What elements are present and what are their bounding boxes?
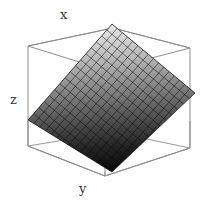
surface-fill bbox=[28, 24, 195, 172]
plot-canvas bbox=[0, 0, 208, 215]
axis-label-x: x bbox=[60, 8, 67, 21]
surface-plot-figure: x y z bbox=[0, 0, 208, 215]
axis-label-z: z bbox=[10, 93, 17, 106]
axis-label-y: y bbox=[79, 182, 86, 195]
surface-mesh bbox=[28, 24, 195, 189]
